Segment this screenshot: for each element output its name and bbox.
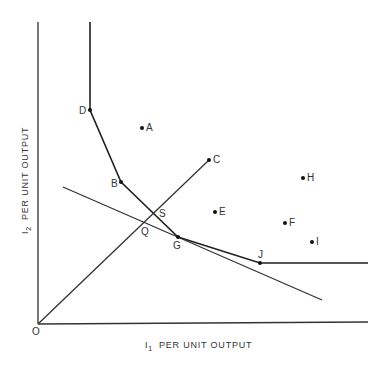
point-label-c: C [213,154,220,165]
point-e [213,210,217,214]
isocost-line [63,187,322,300]
point-a [140,126,144,130]
point-j [258,261,262,265]
point-label-b: B [111,178,118,189]
point-label-a: A [146,122,153,133]
svg-text:I2PER UNIT OUTPUT: I2PER UNIT OUTPUT [20,127,32,234]
y-axis-label: I2PER UNIT OUTPUT [20,127,32,234]
isoquant-diagram: DABCHEFIGJSQ O I1PER UNIT OUTPUT I2PER U… [0,0,388,367]
x-axis-label: I1PER UNIT OUTPUT [145,340,252,352]
origin-label: O [32,326,40,337]
intersection-label-s: S [159,208,166,219]
point-d [88,108,92,112]
x-axis [38,322,368,324]
point-label-g: G [173,240,181,251]
svg-text:I1PER UNIT OUTPUT: I1PER UNIT OUTPUT [145,340,252,352]
point-h [301,176,305,180]
point-g [176,235,180,239]
point-i [310,240,314,244]
point-b [119,180,123,184]
point-label-h: H [307,172,314,183]
point-label-i: I [316,236,319,247]
point-label-e: E [219,206,226,217]
intersection-label-q: Q [141,226,149,237]
point-c [207,158,211,162]
point-label-d: D [79,105,86,116]
point-label-j: J [258,249,263,260]
point-f [283,221,287,225]
isoquant-curve [90,22,368,263]
point-label-f: F [289,217,295,228]
